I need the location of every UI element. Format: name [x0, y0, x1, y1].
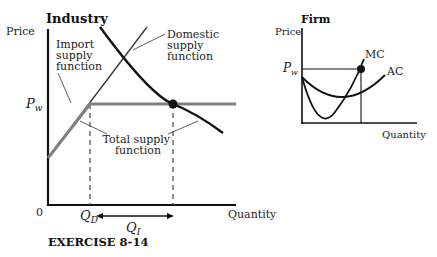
firm-pw-label: Pw [282, 61, 298, 77]
firm-quantity-axis-label: Quantity [382, 129, 426, 140]
qi-arrow-right-head [167, 213, 174, 219]
exercise-caption: EXERCISE 8-14 [48, 235, 148, 249]
domestic-supply-label: Domestic supply function [167, 28, 223, 63]
industry-quantity-axis-label: Quantity [228, 208, 277, 221]
domestic-label-leader [133, 34, 165, 50]
mc-label: MC [365, 48, 385, 61]
mc-curve [302, 59, 364, 119]
industry-title: Industry [46, 11, 108, 26]
import-supply-label: Import supply function [56, 38, 102, 73]
total-supply-label: Total supply function [102, 133, 173, 157]
firm-equilibrium-dot [357, 65, 365, 73]
firm-title: Firm [301, 13, 331, 26]
diagram-canvas: Industry Price Pw Import supply function… [0, 0, 437, 257]
ac-label: AC [386, 65, 403, 78]
industry-equilibrium-dot [169, 100, 178, 109]
import-label-leader [58, 73, 71, 103]
industry-pw-label: Pw [25, 96, 43, 113]
total-label-leader-left [80, 121, 107, 134]
ac-curve [302, 75, 385, 97]
qd-label: QD [80, 208, 98, 225]
industry-price-axis-label: Price [6, 25, 35, 38]
industry-origin-label: 0 [36, 206, 43, 219]
firm-price-axis-label: Price [275, 26, 301, 37]
